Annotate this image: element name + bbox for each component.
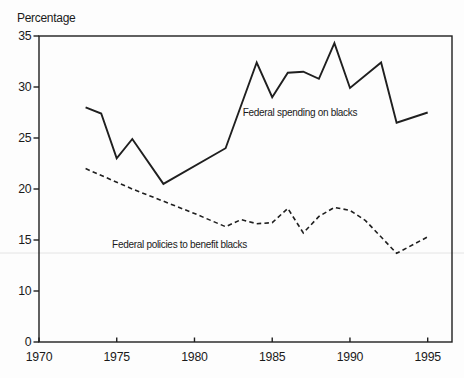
y-tick-label: 10 <box>18 284 32 298</box>
x-tick-label: 1995 <box>414 350 441 364</box>
x-tick-label: 1980 <box>181 350 208 364</box>
x-tick-label: 1990 <box>337 350 364 364</box>
x-tick-label: 1970 <box>26 350 53 364</box>
plot-border <box>39 36 452 342</box>
line-chart-figure: Percentage 35302520151001970197519801985… <box>0 0 464 378</box>
x-tick-label: 1975 <box>103 350 130 364</box>
y-tick-label: 35 <box>18 29 32 43</box>
y-tick-label: 30 <box>18 80 32 94</box>
x-tick-label: 1985 <box>259 350 286 364</box>
y-tick-label: 20 <box>18 182 32 196</box>
y-tick-label: 15 <box>18 233 32 247</box>
chart-canvas: 3530252015100197019751980198519901995Fed… <box>0 0 464 378</box>
y-tick-label: 0 <box>25 335 32 349</box>
series-label: Federal spending on blacks <box>243 107 358 118</box>
series-label: Federal policies to benefit blacks <box>112 239 247 250</box>
y-tick-label: 25 <box>18 131 32 145</box>
